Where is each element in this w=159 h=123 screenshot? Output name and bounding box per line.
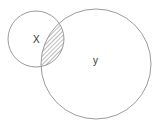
set-y-label: y — [93, 55, 98, 66]
venn-diagram: X y — [0, 0, 159, 123]
venn-svg: X y — [0, 0, 159, 123]
set-x-label: X — [33, 34, 40, 45]
